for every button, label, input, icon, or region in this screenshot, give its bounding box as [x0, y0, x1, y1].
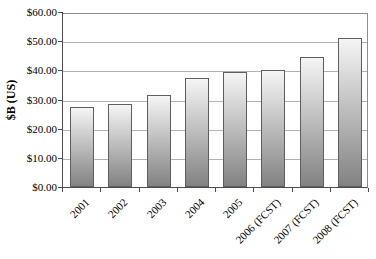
x-tick-mark: [100, 188, 101, 192]
bar-2004: [185, 78, 209, 187]
y-tick-label-30: $30.00: [27, 94, 57, 107]
y-tick-label-50: $50.00: [27, 35, 57, 48]
bar-2002: [108, 104, 132, 187]
x-tick-label-2003: 2003: [144, 196, 168, 220]
x-tick-label-2005: 2005: [221, 196, 245, 220]
plot-area: [62, 13, 368, 188]
bar-chart: $B (US) $0.00$10.00$20.00$30.00$40.00$50…: [0, 0, 376, 259]
y-tick-label-60: $60.00: [27, 6, 57, 19]
bar-2007-fcst-: [300, 57, 324, 187]
x-tick-mark: [139, 188, 140, 192]
x-tick-mark: [253, 188, 254, 192]
x-tick-mark: [215, 188, 216, 192]
gridline-50: [63, 42, 367, 43]
y-tick-mark: [58, 129, 63, 130]
y-tick-mark: [58, 158, 63, 159]
x-tick-mark: [330, 188, 331, 192]
x-tick-label-2004: 2004: [182, 196, 206, 220]
bar-2008-fcst-: [338, 38, 362, 187]
x-tick-label-2002: 2002: [106, 196, 130, 220]
y-tick-label-0: $0.00: [32, 181, 57, 194]
bar-2003: [147, 95, 171, 187]
x-tick-mark: [177, 188, 178, 192]
bar-2001: [70, 107, 94, 187]
y-tick-label-40: $40.00: [27, 64, 57, 77]
bar-2006-fcst-: [261, 70, 285, 187]
bar-2005: [223, 72, 247, 187]
y-tick-label-10: $10.00: [27, 152, 57, 165]
y-tick-mark: [58, 41, 63, 42]
x-tick-label-2001: 2001: [68, 196, 92, 220]
y-axis-title: $B (US): [4, 80, 19, 120]
x-tick-mark: [62, 188, 63, 192]
x-tick-mark: [292, 188, 293, 192]
y-tick-mark: [58, 70, 63, 71]
y-tick-mark: [58, 12, 63, 13]
x-tick-mark: [368, 188, 369, 192]
y-tick-label-20: $20.00: [27, 123, 57, 136]
y-tick-mark: [58, 100, 63, 101]
